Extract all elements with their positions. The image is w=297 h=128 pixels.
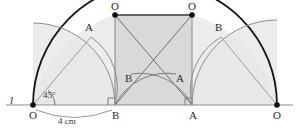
- geometry-figure: l 45° 4 cm O B A O O O A B A B: [0, 0, 297, 128]
- dot-o-right: [274, 102, 280, 108]
- point-label-o-top-left: O: [111, 0, 119, 12]
- point-label-a-mid: A: [176, 72, 184, 84]
- baseline-label: l: [10, 94, 13, 106]
- dot-o-top-left: [112, 12, 118, 18]
- point-label-b-right-arc: B: [215, 21, 222, 33]
- angle-45-label: 45°: [43, 90, 56, 100]
- dimension-4cm-label: 4 cm: [58, 116, 76, 126]
- point-label-a-bottom: A: [189, 109, 197, 121]
- dot-o-left: [30, 102, 36, 108]
- point-label-b-bottom: B: [112, 109, 119, 121]
- point-label-a-left-arc: A: [85, 21, 93, 33]
- point-label-b-mid: B: [125, 72, 132, 84]
- point-label-o-left: O: [29, 109, 37, 121]
- point-label-o-right: O: [273, 109, 281, 121]
- point-label-o-top-right: O: [188, 0, 196, 12]
- dot-o-top-right: [189, 12, 195, 18]
